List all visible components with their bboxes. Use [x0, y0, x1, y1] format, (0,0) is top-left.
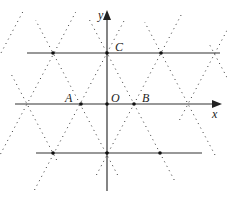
lattice-diagram: y x A O B C	[0, 0, 227, 200]
point-label-o: O	[111, 91, 120, 105]
dotted-line	[180, 20, 227, 120]
lattice-point	[105, 102, 109, 106]
y-axis-label: y	[97, 8, 104, 22]
dotted-line	[90, 20, 175, 180]
lattice-point	[79, 102, 83, 106]
y-axis-arrow	[103, 10, 111, 20]
point-label-c: C	[115, 40, 124, 54]
lattice-point	[105, 51, 109, 55]
dotted-line	[10, 72, 57, 160]
lattice-point	[132, 102, 136, 106]
x-axis-label: x	[211, 107, 218, 121]
lattice-point	[158, 151, 162, 155]
point-label-a: A	[64, 91, 73, 105]
lattice-point	[51, 51, 55, 55]
point-label-b: B	[142, 91, 150, 105]
dotted-line	[34, 20, 124, 190]
lattice-point	[105, 151, 109, 155]
dotted-line	[96, 15, 181, 175]
dotted-line	[36, 20, 118, 175]
lattice-point	[159, 51, 163, 55]
lattice-point	[51, 151, 55, 155]
dotted-line	[208, 42, 227, 170]
dotted-line	[0, 12, 23, 150]
dotted-line	[145, 22, 215, 155]
